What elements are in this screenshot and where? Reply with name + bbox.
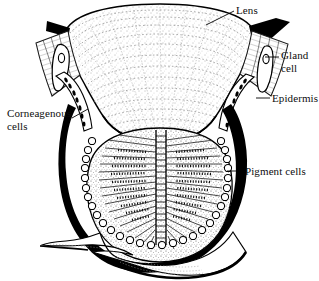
label-gland-cell: Gland cell: [281, 49, 308, 74]
label-lens: Lens: [236, 4, 258, 17]
diagram-canvas: [0, 0, 319, 281]
label-pigment-cells: Pigment cells: [245, 165, 306, 178]
label-epidermis: Epidermis: [272, 92, 318, 105]
ocellus-diagram: Lens Gland cell Epidermis Corneagenous c…: [0, 0, 319, 281]
label-corneagenous-cells: Corneagenous cells: [7, 107, 71, 132]
